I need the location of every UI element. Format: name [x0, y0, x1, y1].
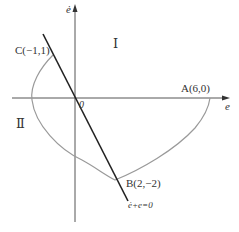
switching-line [43, 34, 128, 201]
region-2-label: Ⅱ [16, 117, 25, 130]
point-a-label: A(6,0) [181, 83, 210, 94]
point-b-label: B(2,−2) [126, 178, 161, 189]
edot-axis-arrow-icon [73, 4, 78, 12]
edot-axis-label: ė [66, 4, 71, 15]
point-c-label: C(−1,1) [15, 45, 50, 56]
diagram-canvas [0, 0, 239, 232]
line-equation-label: ė+e=0 [128, 201, 153, 210]
region-1-label: Ⅰ [113, 37, 118, 50]
e-axis-label: e [225, 101, 230, 112]
phase-plane-diagram: ė e 0 Ⅰ Ⅱ C(−1,1) A(6,0) B(2,−2) ė+e=0 [0, 0, 239, 232]
origin-label: 0 [79, 100, 84, 110]
trajectory-curve [32, 55, 210, 180]
